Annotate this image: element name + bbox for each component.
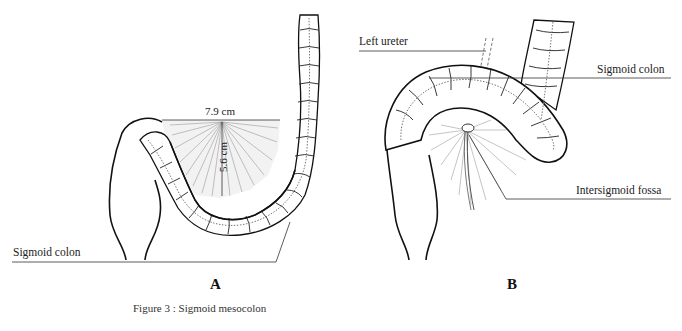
label-left-ureter: Left ureter: [359, 35, 408, 47]
panel-a-illustration: [0, 0, 341, 331]
panel-letter-a: A: [210, 276, 221, 293]
label-intersigmoid-fossa: Intersigmoid fossa: [576, 184, 661, 196]
panel-b: Left ureter Sigmoid colon Intersigmoid f…: [341, 0, 682, 331]
height-measure-label: 5.6 cm: [217, 142, 229, 172]
label-sigmoid-colon-a: Sigmoid colon: [13, 246, 80, 258]
figure-caption: Figure 3 : Sigmoid mesocolon: [133, 302, 266, 314]
panel-a: 7.9 cm 5.6 cm Sigmoid colon A: [0, 0, 341, 331]
width-measure-label: 7.9 cm: [205, 105, 235, 117]
panel-letter-b: B: [507, 276, 517, 293]
label-sigmoid-colon-b: Sigmoid colon: [597, 63, 664, 75]
